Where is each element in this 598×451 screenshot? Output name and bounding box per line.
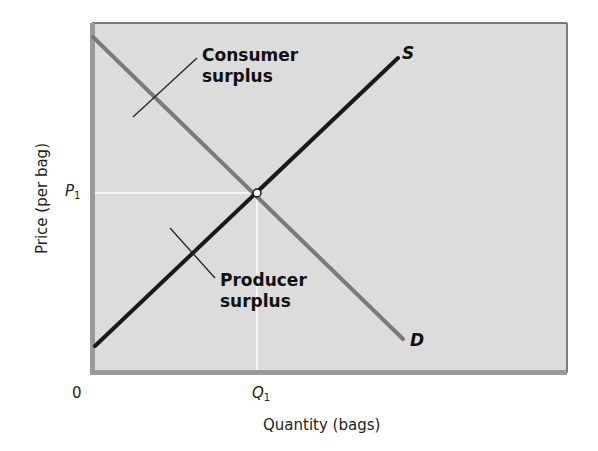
producer-surplus-label: Producer surplus: [220, 270, 307, 312]
q1-main: Q: [252, 384, 264, 402]
p1-subscript: 1: [74, 190, 80, 201]
x-axis: [90, 370, 567, 375]
plot-area: [92, 23, 567, 373]
producer-surplus-line2: surplus: [220, 291, 307, 312]
y-axis: [90, 23, 95, 375]
producer-surplus-line1: Producer: [220, 270, 307, 291]
y-axis-title: Price (per bag): [33, 144, 51, 254]
consumer-surplus-line2: surplus: [202, 66, 298, 87]
q1-subscript: 1: [264, 392, 270, 403]
p1-main: P: [65, 182, 74, 200]
q1-tick-label: Q1: [252, 384, 270, 402]
supply-demand-chart: Consumer surplus Producer surplus S D P1…: [0, 0, 598, 451]
chart-canvas: [0, 0, 598, 451]
x-axis-title: Quantity (bags): [263, 416, 380, 434]
supply-label: S: [402, 43, 414, 63]
consumer-surplus-line1: Consumer: [202, 45, 298, 66]
equilibrium-point: [253, 189, 261, 197]
consumer-surplus-label: Consumer surplus: [202, 45, 298, 87]
demand-label: D: [410, 330, 424, 350]
p1-tick-label: P1: [65, 182, 80, 200]
origin-label: 0: [72, 384, 82, 402]
